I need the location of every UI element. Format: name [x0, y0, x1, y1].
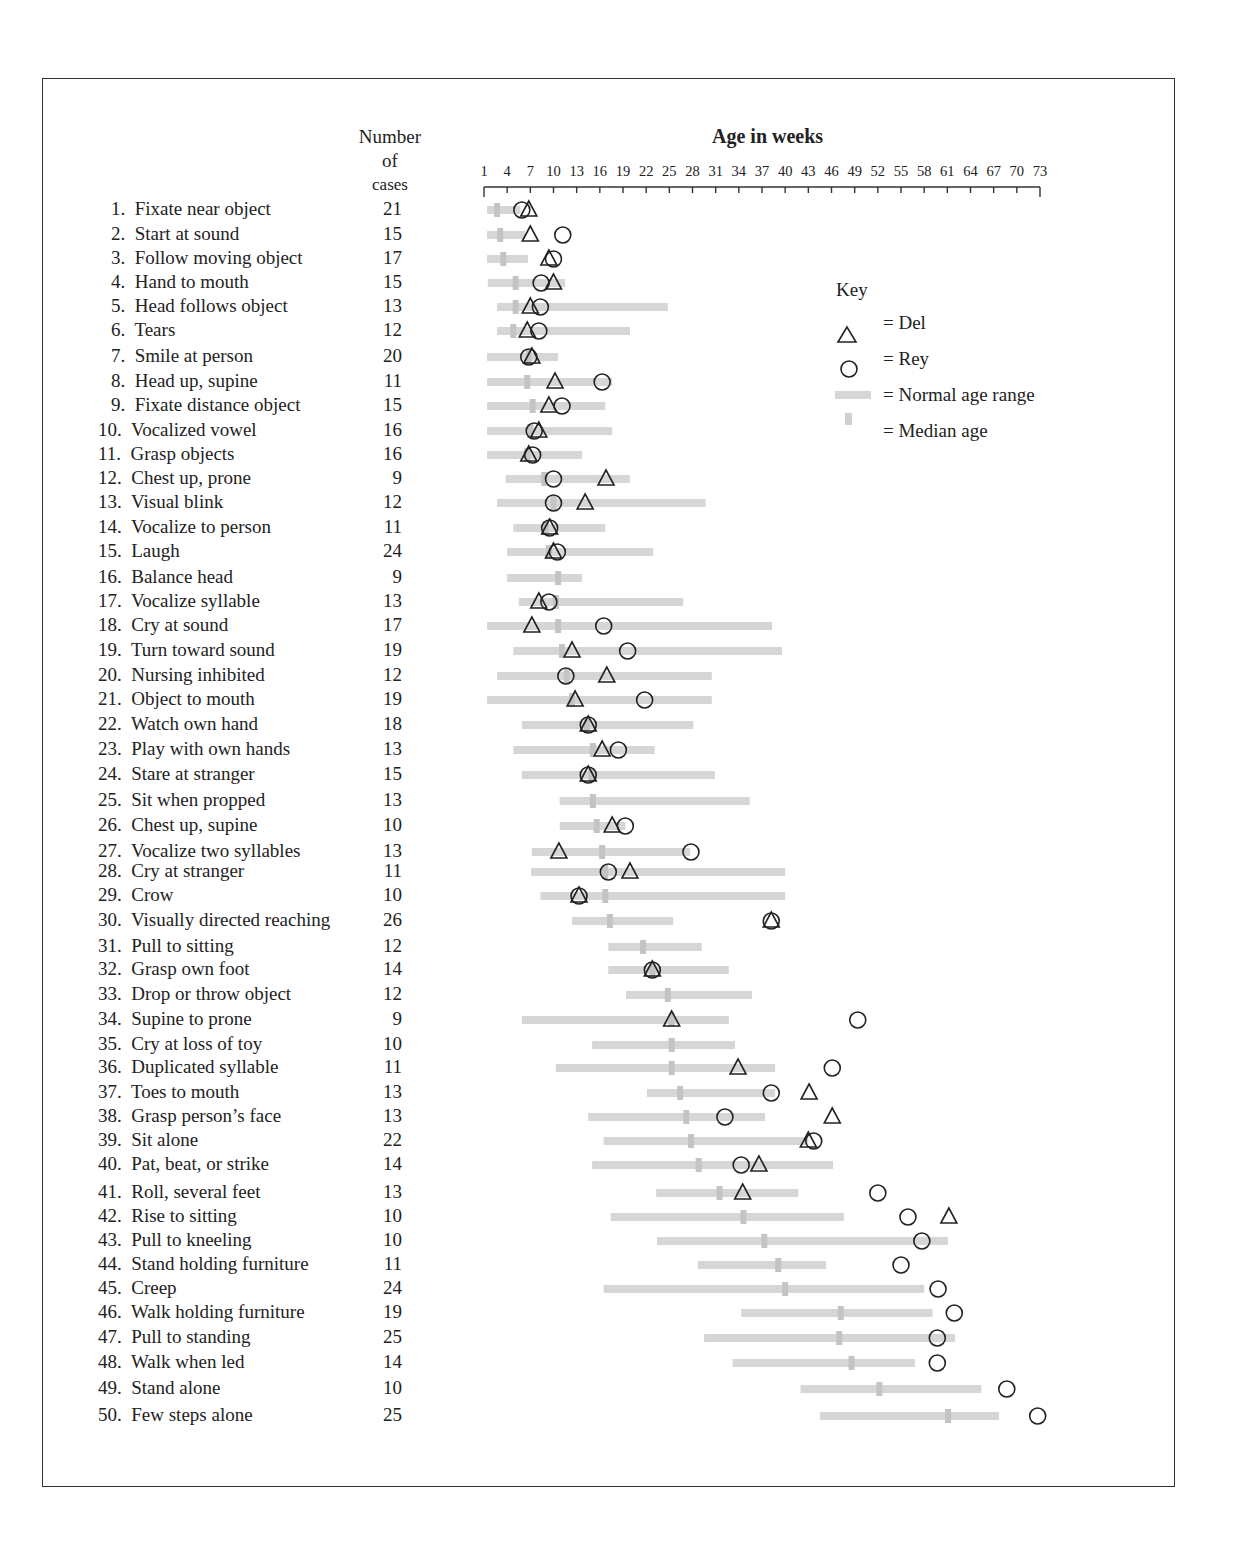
median-marker [590, 794, 596, 808]
median-marker [838, 1306, 844, 1320]
median-marker [849, 1356, 855, 1370]
legend-del: = Del [883, 312, 926, 334]
item-row-marks [560, 794, 750, 808]
median-marker [494, 203, 500, 217]
median-marker [564, 669, 570, 683]
item-row-marks [647, 1084, 817, 1101]
median-marker [677, 1086, 683, 1100]
legend-range: = Normal age range [883, 384, 1035, 406]
normal-range-bar [626, 991, 752, 999]
rey-circle-icon [870, 1185, 886, 1201]
median-marker [782, 1282, 788, 1296]
median-marker [602, 889, 608, 903]
legend-title: Key [836, 279, 868, 301]
normal-range-bar [522, 771, 715, 779]
median-marker [602, 865, 608, 879]
normal-range-bar [741, 1309, 933, 1317]
rey-circle-icon [893, 1257, 909, 1273]
normal-range-bar [513, 647, 782, 655]
median-marker [510, 324, 516, 338]
median-marker [717, 1186, 723, 1200]
item-row-marks [608, 940, 701, 954]
median-marker [775, 1258, 781, 1272]
item-row-marks [507, 571, 582, 585]
normal-range-bar [608, 966, 728, 974]
item-row-marks [588, 1108, 840, 1125]
normal-range-bar [733, 1359, 915, 1367]
item-row-marks [513, 519, 605, 536]
median-marker [594, 819, 600, 833]
legend-median: = Median age [883, 420, 988, 442]
normal-range-bar [513, 524, 605, 532]
median-marker [669, 1038, 675, 1052]
normal-range-bar [497, 499, 706, 507]
normal-range-bar [497, 303, 668, 311]
normal-range-bar [522, 1016, 729, 1024]
median-marker [555, 571, 561, 585]
item-row-marks [497, 322, 630, 339]
median-marker [530, 399, 536, 413]
normal-range-bar [497, 327, 630, 335]
median-marker [497, 228, 503, 242]
normal-range-bar [507, 574, 582, 582]
normal-range-bar [487, 255, 528, 263]
normal-range-bar [487, 231, 525, 239]
item-row-marks [487, 446, 582, 463]
median-swatch-icon [845, 413, 852, 425]
item-row-marks [497, 667, 712, 684]
item-row-marks [657, 1233, 948, 1249]
median-marker [555, 619, 561, 633]
normal-range-bar [560, 797, 750, 805]
rey-circle-icon [929, 1355, 945, 1371]
rey-circle-icon [930, 1281, 946, 1297]
triangle-icon [838, 327, 856, 342]
normal-range-bar [487, 696, 712, 704]
item-row-marks [487, 201, 537, 218]
normal-range-bar [604, 1137, 809, 1145]
item-row-marks [487, 422, 612, 439]
rey-circle-icon [946, 1305, 962, 1321]
median-marker [607, 914, 613, 928]
item-row-marks [801, 1381, 1015, 1397]
normal-range-bar [487, 622, 772, 630]
median-marker [500, 252, 506, 266]
normal-range-bar [657, 1237, 948, 1245]
rey-circle-icon [999, 1381, 1015, 1397]
median-marker [669, 1061, 675, 1075]
item-row-marks [507, 543, 653, 560]
item-row-marks [513, 741, 654, 758]
item-row-marks [487, 226, 571, 243]
normal-range-bar [540, 892, 785, 900]
del-triangle-icon [941, 1208, 957, 1223]
normal-range-bar [487, 353, 558, 361]
median-marker [696, 1158, 702, 1172]
item-row-marks [540, 887, 785, 904]
median-marker [513, 276, 519, 290]
item-row-marks [497, 298, 668, 315]
item-row-marks [656, 1184, 886, 1201]
item-row-marks [487, 373, 612, 390]
normal-range-bar [531, 868, 785, 876]
item-row-marks [698, 1257, 909, 1273]
median-marker [761, 1234, 767, 1248]
item-row-marks [522, 766, 715, 783]
median-marker [688, 1134, 694, 1148]
median-marker [665, 988, 671, 1002]
item-row-marks [519, 593, 683, 610]
item-row-marks [741, 1305, 962, 1321]
item-row-marks [487, 691, 712, 708]
normal-range-bar [488, 279, 565, 287]
normal-range-bar [820, 1412, 999, 1420]
item-row-marks [487, 617, 772, 634]
item-row-marks [488, 274, 565, 291]
median-marker [640, 940, 646, 954]
item-row-marks [487, 348, 558, 365]
item-row-marks [592, 1156, 833, 1173]
normal-range-bar [507, 548, 653, 556]
median-marker [524, 375, 530, 389]
rey-circle-icon [824, 1060, 840, 1076]
item-row-marks [487, 250, 561, 267]
median-marker [551, 496, 557, 510]
item-row-marks [532, 843, 699, 860]
normal-range-bar [698, 1261, 826, 1269]
